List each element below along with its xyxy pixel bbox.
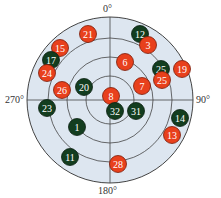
marker-13-red: 13 xyxy=(164,127,181,144)
marker-20-green: 20 xyxy=(76,79,93,96)
marker-7-red: 7 xyxy=(134,78,151,95)
marker-25-red: 25 xyxy=(154,72,171,89)
marker-21-red: 21 xyxy=(80,26,97,43)
label-90deg: 90° xyxy=(196,95,210,105)
marker-label: 32 xyxy=(110,106,120,117)
marker-label: 19 xyxy=(177,64,187,75)
marker-31-green: 31 xyxy=(128,103,145,120)
marker-label: 23 xyxy=(42,103,52,114)
marker-label: 26 xyxy=(57,85,67,96)
marker-label: 8 xyxy=(109,91,114,102)
marker-26-red: 26 xyxy=(54,82,71,99)
label-180deg: 180° xyxy=(98,186,117,196)
marker-label: 28 xyxy=(113,159,123,170)
marker-label: 7 xyxy=(140,81,145,92)
label-0deg: 0° xyxy=(103,4,112,14)
marker-3-red: 3 xyxy=(140,37,157,54)
marker-label: 31 xyxy=(131,106,141,117)
label-270deg: 270° xyxy=(5,95,24,105)
marker-label: 11 xyxy=(65,152,75,163)
marker-label: 25 xyxy=(157,75,167,86)
marker-24-red: 24 xyxy=(39,65,56,82)
polar-chart: 211231517625192425720268233231141131128 xyxy=(0,0,221,198)
marker-11-green: 11 xyxy=(62,149,79,166)
marker-32-green: 32 xyxy=(107,103,124,120)
marker-label: 14 xyxy=(175,113,185,124)
marker-label: 20 xyxy=(79,82,89,93)
marker-8-red: 8 xyxy=(103,88,120,105)
marker-6-red: 6 xyxy=(117,54,134,71)
marker-label: 1 xyxy=(75,122,80,133)
marker-label: 13 xyxy=(167,130,177,141)
marker-label: 3 xyxy=(146,40,151,51)
marker-1-green: 1 xyxy=(69,119,86,136)
marker-14-green: 14 xyxy=(172,110,189,127)
marker-23-green: 23 xyxy=(39,100,56,117)
marker-label: 15 xyxy=(55,43,65,54)
marker-label: 24 xyxy=(42,68,52,79)
marker-label: 6 xyxy=(123,57,128,68)
marker-label: 21 xyxy=(83,29,93,40)
marker-28-red: 28 xyxy=(110,156,127,173)
marker-19-red: 19 xyxy=(174,61,191,78)
